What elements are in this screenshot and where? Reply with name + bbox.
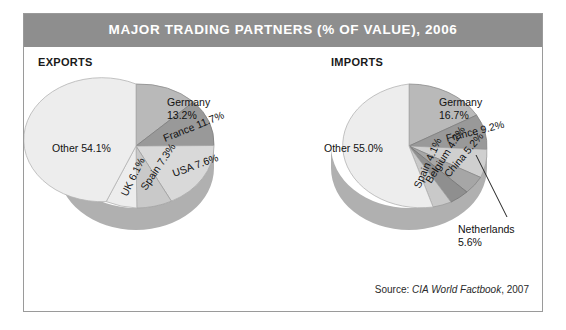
imports-label-germany-line2: 16.7%	[439, 109, 469, 121]
source-attribution: Source: CIA World Factbook, 2007	[375, 284, 529, 295]
source-suffix: , 2007	[501, 284, 529, 295]
imports-pie-chart: Germany 16.7% France 9.2% China 5.2% Bel…	[324, 84, 515, 248]
imports-label-other: Other 55.0%	[324, 142, 383, 154]
pie-charts-svg: Germany 13.2% France 11.7% USA 7.6% Spai…	[24, 14, 544, 313]
chart-frame: MAJOR TRADING PARTNERS (% OF VALUE), 200…	[23, 13, 543, 312]
imports-label-germany-line1: Germany	[439, 96, 483, 108]
exports-label-germany-line1: Germany	[167, 96, 211, 108]
imports-label-netherlands-line1: Netherlands	[458, 223, 515, 235]
source-prefix: Source:	[375, 284, 409, 295]
exports-label-other: Other 54.1%	[52, 142, 111, 154]
imports-label-netherlands-line2: 5.6%	[458, 236, 482, 248]
source-work-title: CIA World Factbook	[412, 284, 501, 295]
exports-pie-chart: Germany 13.2% France 11.7% USA 7.6% Spai…	[24, 78, 226, 230]
